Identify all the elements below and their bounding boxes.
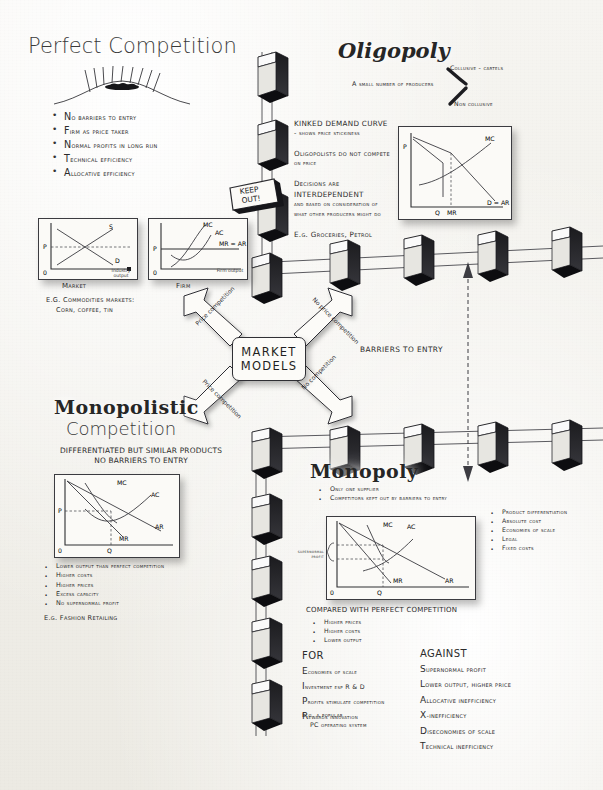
monopoly-barrier-item: Fixed costs	[490, 544, 600, 553]
list-item-label: upernormal profit	[426, 666, 486, 674]
oligopoly-note: Decisions are INTERDEPENDENTand based on…	[294, 178, 404, 220]
chart-monopolistic-competition: P MC AC MR AR Q 0	[54, 474, 180, 558]
svg-text:MC: MC	[203, 221, 213, 228]
oligopoly-note: E.g. Groceries, Petrol	[294, 229, 404, 240]
monopoly-heading: Monopoly	[310, 460, 418, 482]
fence-plank	[252, 680, 282, 731]
monopolistic-example: E.g. Fashion Retailing	[44, 614, 118, 622]
section-perfect-competition: Perfect Competition	[28, 34, 248, 58]
list-item-label: irm as price taker	[70, 127, 129, 136]
fence-plank	[258, 52, 288, 103]
monopoly-bullet: Only one supplier	[318, 485, 518, 494]
list-item-label: conomies of scale	[308, 668, 357, 675]
monopoly-bullet: Competitors kept out by barriers to entr…	[318, 494, 518, 503]
market-models-node: MARKET MODELS	[232, 337, 306, 381]
market-models-line1: MARKET	[241, 345, 296, 359]
chart-market-xlabel: Industry output	[104, 268, 138, 278]
svg-text:MR: MR	[393, 577, 403, 584]
fence-plank	[404, 235, 434, 286]
list-item-label: ormal profits in long run	[71, 141, 157, 150]
monopolistic-bullet: No supernormal profit	[44, 599, 234, 608]
svg-text:MC: MC	[485, 135, 495, 142]
oligopoly-note-line: and based on consideration of	[294, 200, 404, 210]
oligopoly-note: KINKED DEMAND CURVE- shows price stickin…	[294, 118, 404, 139]
monopolistic-heading-line1: Monopolistic	[54, 396, 199, 418]
monopoly-against-item: Lower output, higher price	[420, 677, 580, 692]
list-item-label: ower output, higher price	[425, 681, 511, 689]
svg-text:MR = AR: MR = AR	[219, 240, 247, 247]
keep-out-sign: KEEP OUT!	[228, 176, 290, 220]
monopoly-compared-list: Higher pricesHigher costsLower output	[312, 618, 462, 645]
monopoly-barriers-list: Product differentiationAbsolute costEcon…	[490, 508, 600, 553]
barriers-arrowhead	[463, 466, 473, 482]
fence-plank	[252, 556, 282, 607]
oligopoly-note-line: what other producers might do	[294, 210, 404, 220]
monopolistic-heading-line2: Competition	[66, 418, 176, 439]
svg-text:AC: AC	[215, 229, 223, 236]
perfect-competition-bullet: Firm as price taker	[52, 124, 232, 138]
svg-text:0: 0	[43, 269, 47, 276]
oligopoly-branch-noncollusive: Non collusive	[454, 100, 493, 107]
oligopoly-note-line: Decisions are INTERDEPENDENT	[294, 178, 404, 200]
oligopoly-heading: Oligopoly	[338, 38, 450, 63]
oligopoly-notes: KINKED DEMAND CURVE- shows price stickin…	[294, 118, 404, 249]
svg-text:D = AR: D = AR	[487, 199, 510, 206]
svg-text:0: 0	[153, 269, 157, 276]
oligopoly-note-line: KINKED DEMAND CURVE	[294, 118, 404, 129]
list-item-label: llocative efficiency	[71, 169, 135, 178]
monopolistic-bullet: Higher prices	[44, 581, 234, 590]
monopolistic-subheading: DIFFERENTIATED BUT SIMILAR PRODUCTS NO B…	[46, 446, 236, 467]
sunrise-doodle	[52, 64, 192, 106]
monopoly-against-item: X-inefficiency	[420, 708, 580, 723]
fence-plank	[252, 618, 282, 669]
list-item-dropcap: A	[64, 167, 71, 178]
svg-text:AR: AR	[445, 577, 454, 584]
perfect-competition-bullet: Technical efficiency	[52, 152, 232, 166]
list-item-label: echnical inefficiency	[426, 743, 494, 751]
fence-plank	[252, 494, 282, 545]
svg-text:MC: MC	[117, 479, 127, 486]
monopoly-chart-annotation: supernormal profit	[292, 549, 324, 559]
market-models-line2: MODELS	[241, 359, 298, 373]
monopoly-for-example-line1: E.g. a popular	[302, 710, 367, 720]
monopoly-against-title: AGAINST	[420, 648, 467, 659]
monopoly-bullet-list: Only one supplierCompetitors kept out by…	[318, 485, 518, 504]
barriers-to-entry-label: BARRIERS TO ENTRY	[360, 345, 443, 354]
list-item-label: nvestment esp R & D	[305, 683, 365, 690]
oligopoly-branch-collusive: Collusive - cartels	[450, 64, 503, 71]
svg-text:P: P	[43, 243, 47, 250]
svg-text:Q: Q	[377, 589, 382, 596]
monopoly-barrier-item: Legal	[490, 535, 600, 544]
list-item-label: -inefficiency	[426, 712, 466, 720]
monopoly-compared-bullet: Higher costs	[312, 627, 462, 636]
monopoly-for-title: FOR	[302, 650, 324, 661]
svg-text:MC: MC	[383, 521, 393, 528]
monopoly-against-item: Supernormal profit	[420, 662, 580, 677]
pc-example-line2: Corn, coffee, tin	[46, 306, 135, 316]
chart-monopoly: MC AC MR AR Q 0	[326, 516, 476, 600]
perfect-competition-bullet: No barriers to entry	[52, 110, 232, 124]
monopolistic-bullet-list: Lower output than perfect competitionHig…	[44, 562, 234, 608]
svg-text:MR: MR	[447, 209, 457, 216]
monopolistic-subheading-line2: NO BARRIERS TO ENTRY	[46, 456, 236, 466]
chart-market-caption: Market	[62, 282, 86, 290]
monopolistic-bullet: Higher costs	[44, 571, 234, 580]
svg-text:S: S	[109, 223, 113, 230]
oligopoly-note: Oligopolists do not competeon price	[294, 148, 404, 169]
svg-text:D: D	[115, 257, 120, 264]
fence-plank	[258, 120, 288, 171]
svg-text:AR: AR	[155, 523, 164, 530]
perfect-competition-example: E.G. Commodities markets: Corn, coffee, …	[46, 296, 135, 316]
monopolistic-subheading-line1: DIFFERENTIATED BUT SIMILAR PRODUCTS	[46, 446, 236, 456]
svg-text:MR: MR	[119, 535, 129, 542]
svg-text:AC: AC	[151, 491, 159, 498]
perfect-competition-bullet: Normal profits in long run	[52, 138, 232, 152]
svg-text:0: 0	[330, 589, 334, 596]
monopoly-against-list: Supernormal profitLower output, higher p…	[420, 662, 580, 755]
oligopoly-note-line: - shows price stickiness	[294, 129, 404, 139]
svg-text:Q: Q	[107, 547, 112, 554]
list-item-label: rofits stimulate competition	[308, 698, 385, 705]
svg-text:P: P	[153, 245, 157, 252]
monopoly-barrier-item: Product differentiation	[490, 508, 600, 517]
monopoly-for-example: E.g. a popular PC operating system	[302, 710, 367, 730]
